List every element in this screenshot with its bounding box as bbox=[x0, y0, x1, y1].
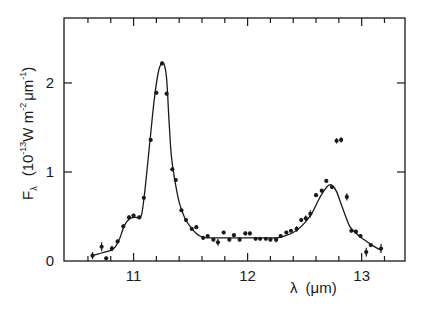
data-point bbox=[206, 234, 210, 238]
point-marker bbox=[268, 238, 272, 242]
data-point bbox=[248, 231, 252, 235]
data-point bbox=[154, 91, 158, 95]
data-point bbox=[379, 244, 383, 253]
data-point bbox=[104, 256, 108, 260]
point-marker bbox=[364, 250, 368, 254]
point-marker bbox=[90, 254, 94, 258]
data-point bbox=[127, 215, 131, 219]
data-point bbox=[253, 237, 257, 241]
y-tick-label: 2 bbox=[46, 74, 54, 91]
point-marker bbox=[289, 229, 293, 233]
plot-frame bbox=[64, 18, 405, 261]
data-point bbox=[320, 189, 324, 193]
data-point bbox=[238, 238, 242, 242]
point-marker bbox=[170, 167, 174, 171]
point-marker bbox=[184, 218, 188, 222]
data-point bbox=[184, 218, 188, 222]
point-marker bbox=[201, 236, 205, 240]
data-point bbox=[279, 234, 283, 238]
data-points bbox=[90, 61, 383, 260]
x-tick-label: 13 bbox=[353, 267, 370, 284]
data-point bbox=[232, 233, 236, 237]
point-marker bbox=[179, 208, 183, 212]
point-marker bbox=[104, 256, 108, 260]
data-point bbox=[190, 227, 194, 231]
data-point bbox=[339, 137, 343, 142]
data-point bbox=[179, 208, 183, 212]
point-marker bbox=[248, 231, 252, 235]
point-marker bbox=[324, 179, 328, 183]
data-point bbox=[334, 138, 338, 143]
data-point bbox=[243, 231, 247, 235]
data-point bbox=[174, 178, 178, 182]
point-marker bbox=[258, 237, 262, 241]
data-point bbox=[216, 239, 220, 246]
point-marker bbox=[295, 227, 299, 231]
point-marker bbox=[369, 243, 373, 247]
point-marker bbox=[190, 227, 194, 231]
point-marker bbox=[274, 238, 278, 242]
point-marker bbox=[334, 139, 338, 143]
point-marker bbox=[379, 246, 383, 250]
point-marker bbox=[137, 215, 141, 219]
point-marker bbox=[194, 225, 198, 229]
data-point bbox=[170, 167, 174, 171]
data-point bbox=[160, 61, 164, 65]
data-point bbox=[264, 237, 268, 241]
point-marker bbox=[320, 189, 324, 193]
point-marker bbox=[149, 138, 153, 142]
point-marker bbox=[227, 238, 231, 242]
point-marker bbox=[279, 234, 283, 238]
point-marker bbox=[232, 233, 236, 237]
point-marker bbox=[211, 238, 215, 242]
data-point bbox=[314, 193, 318, 197]
data-point bbox=[354, 230, 358, 234]
point-marker bbox=[121, 224, 125, 228]
data-point bbox=[142, 196, 146, 200]
data-point bbox=[284, 230, 288, 234]
tick-labels: 111213012 bbox=[46, 74, 370, 284]
data-point bbox=[289, 229, 293, 233]
point-marker bbox=[253, 237, 257, 241]
data-point bbox=[258, 237, 262, 241]
point-marker bbox=[154, 91, 158, 95]
point-marker bbox=[116, 239, 120, 243]
point-marker bbox=[354, 230, 358, 234]
data-point bbox=[121, 224, 125, 228]
point-marker bbox=[345, 195, 349, 199]
point-marker bbox=[131, 214, 135, 218]
x-tick-label: 12 bbox=[239, 267, 256, 284]
point-marker bbox=[110, 246, 114, 250]
point-marker bbox=[308, 212, 312, 216]
data-point bbox=[165, 92, 169, 96]
point-marker bbox=[299, 218, 303, 222]
data-point bbox=[369, 243, 373, 247]
point-marker bbox=[314, 193, 318, 197]
data-point bbox=[100, 242, 104, 251]
data-point bbox=[227, 238, 231, 242]
point-marker bbox=[243, 231, 247, 235]
point-marker bbox=[330, 185, 334, 189]
point-marker bbox=[304, 216, 308, 220]
point-marker bbox=[216, 240, 220, 244]
data-point bbox=[149, 138, 153, 142]
point-marker bbox=[222, 230, 226, 234]
data-point bbox=[324, 179, 328, 183]
point-marker bbox=[127, 215, 131, 219]
model-fit-curve bbox=[93, 63, 382, 256]
point-marker bbox=[160, 61, 164, 65]
point-marker bbox=[165, 92, 169, 96]
data-point bbox=[349, 229, 353, 233]
point-marker bbox=[100, 245, 104, 249]
data-point bbox=[194, 225, 198, 229]
data-point bbox=[116, 239, 120, 243]
data-point bbox=[268, 238, 272, 242]
data-point bbox=[131, 214, 135, 218]
point-marker bbox=[349, 229, 353, 233]
data-point bbox=[358, 234, 362, 238]
spectrum-chart: 111213012 Fλ(10-13W m-2μm-1) λ(μm) bbox=[0, 0, 422, 313]
point-marker bbox=[264, 237, 268, 241]
point-marker bbox=[238, 238, 242, 242]
x-tick-label: 11 bbox=[126, 267, 142, 284]
point-marker bbox=[358, 234, 362, 238]
